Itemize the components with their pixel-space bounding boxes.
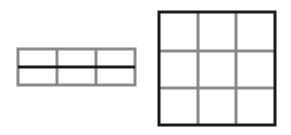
right-grid-bold-border bbox=[159, 12, 275, 125]
left-grid bbox=[18, 49, 135, 85]
diagram-canvas bbox=[0, 0, 291, 135]
right-grid bbox=[159, 12, 275, 125]
